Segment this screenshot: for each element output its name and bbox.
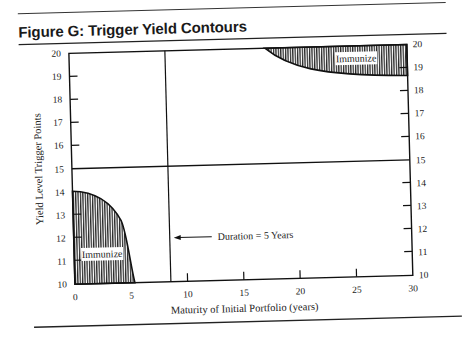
svg-text:13: 13 bbox=[56, 210, 66, 220]
svg-text:18: 18 bbox=[52, 94, 62, 104]
svg-text:14: 14 bbox=[416, 178, 426, 188]
svg-text:16: 16 bbox=[415, 131, 425, 141]
trigger-yield-chart: 20 19 18 17 16 15 14 13 12 11 10 20 19 1… bbox=[0, 0, 469, 339]
arrow-head-icon bbox=[174, 235, 181, 240]
x-axis-label: Maturity of Initial Portfolio (years) bbox=[171, 301, 319, 317]
svg-text:19: 19 bbox=[413, 62, 423, 72]
svg-text:11: 11 bbox=[418, 247, 428, 257]
immunize-lower-label: Immunize bbox=[82, 248, 123, 260]
svg-text:18: 18 bbox=[414, 85, 424, 95]
svg-text:20: 20 bbox=[413, 39, 423, 49]
duration-arrow bbox=[178, 237, 212, 238]
yield-15-line bbox=[72, 160, 410, 169]
svg-text:20: 20 bbox=[296, 286, 306, 296]
duration-label: Duration = 5 Years bbox=[218, 229, 294, 242]
svg-text:25: 25 bbox=[352, 285, 362, 295]
x-tick-labels: 0 5 10 15 20 25 30 bbox=[73, 283, 419, 302]
svg-text:0: 0 bbox=[73, 292, 78, 302]
svg-text:11: 11 bbox=[57, 256, 67, 266]
svg-text:14: 14 bbox=[55, 187, 65, 197]
svg-text:15: 15 bbox=[239, 288, 249, 298]
svg-text:13: 13 bbox=[417, 201, 427, 211]
svg-text:12: 12 bbox=[56, 233, 66, 243]
left-y-tick-labels: 20 19 18 17 16 15 14 13 12 11 10 bbox=[51, 49, 67, 290]
immunize-region-lower bbox=[73, 190, 135, 285]
svg-text:15: 15 bbox=[416, 155, 426, 165]
figure-page: Figure G: Trigger Yield Contours bbox=[0, 0, 469, 339]
svg-text:30: 30 bbox=[408, 283, 418, 293]
svg-text:17: 17 bbox=[414, 108, 424, 118]
svg-text:20: 20 bbox=[51, 49, 61, 59]
svg-text:17: 17 bbox=[53, 117, 63, 127]
right-y-tick-labels: 20 19 18 17 16 15 14 13 12 11 10 bbox=[413, 39, 429, 280]
title-rule bbox=[19, 33, 447, 44]
y-axis-label: Yield Level Trigger Points bbox=[31, 113, 45, 225]
svg-text:15: 15 bbox=[54, 164, 64, 174]
svg-text:19: 19 bbox=[52, 72, 62, 82]
svg-text:12: 12 bbox=[417, 224, 427, 234]
svg-text:10: 10 bbox=[183, 289, 193, 299]
top-rule bbox=[18, 2, 446, 13]
svg-text:10: 10 bbox=[419, 270, 429, 280]
svg-text:10: 10 bbox=[57, 279, 67, 289]
immunize-upper-label: Immunize bbox=[336, 52, 377, 64]
svg-text:16: 16 bbox=[54, 140, 64, 150]
bottom-rule bbox=[34, 316, 462, 327]
svg-text:5: 5 bbox=[129, 291, 134, 301]
